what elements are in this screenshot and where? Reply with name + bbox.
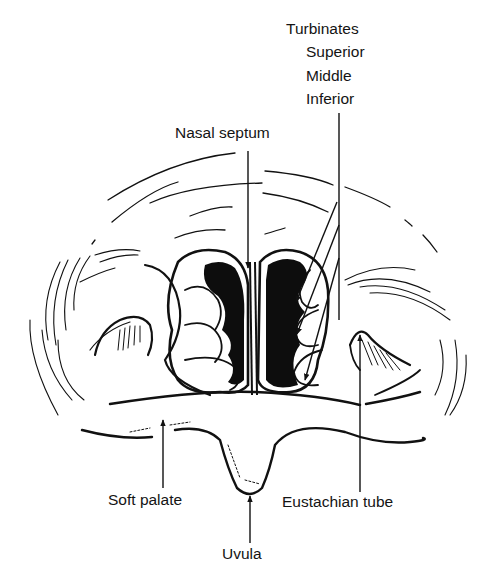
- contour-lines-left: [30, 250, 140, 415]
- uvula-outline: [82, 428, 425, 494]
- septum: [250, 262, 252, 395]
- label-soft-palate: Soft palate: [108, 491, 182, 509]
- label-turbinate-inferior: Inferior: [306, 90, 354, 108]
- label-uvula: Uvula: [222, 545, 262, 563]
- anatomy-drawing: [0, 0, 499, 586]
- label-turbinate-superior: Superior: [306, 43, 365, 61]
- torus-tubarius: [350, 332, 410, 365]
- contour-lines-right: [345, 268, 466, 415]
- contour-lines-upper: [92, 153, 437, 252]
- label-nasal-septum: Nasal septum: [175, 124, 270, 142]
- left-pharyngeal-fold: [145, 265, 210, 395]
- soft-palate-line: [110, 392, 420, 405]
- label-eustachian-tube: Eustachian tube: [282, 493, 393, 511]
- label-turbinate-middle: Middle: [306, 67, 352, 85]
- inferior-turbinate-arrow: [305, 258, 339, 380]
- label-turbinates: Turbinates: [286, 20, 359, 38]
